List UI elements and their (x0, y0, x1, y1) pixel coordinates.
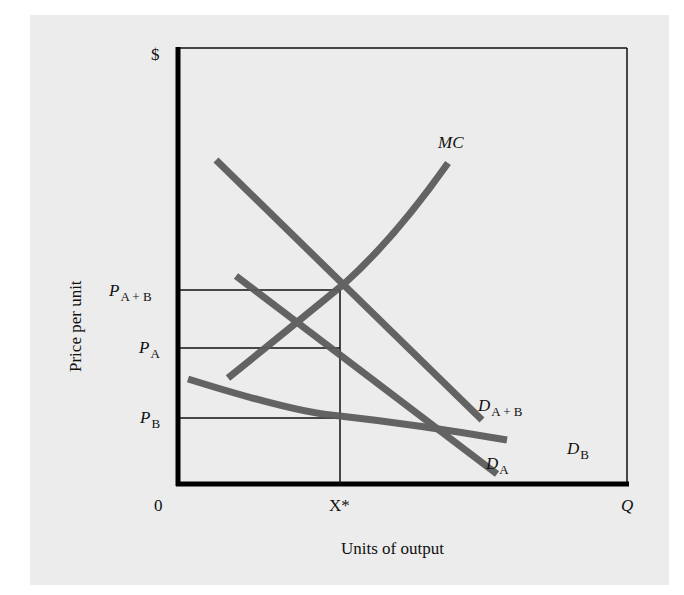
tick-p-b: PB (140, 409, 160, 426)
d-a-label: DA (486, 455, 509, 472)
y-axis-dollar-label: $ (151, 46, 160, 63)
tick-p-ab: PA + B (109, 282, 152, 299)
tick-p-a: PA (139, 339, 160, 356)
mc-label: MC (438, 134, 464, 151)
curve-d-b (188, 379, 507, 440)
x-axis-title: Units of output (341, 540, 444, 557)
d-ab-label: DA + B (478, 397, 522, 414)
origin-label: 0 (154, 497, 163, 514)
curve-mc (228, 163, 448, 378)
x-axis-q-label: Q (621, 497, 633, 514)
d-b-label: DB (567, 440, 589, 457)
y-axis-title: Price per unit (66, 280, 86, 372)
xstar-label: X* (329, 497, 350, 514)
